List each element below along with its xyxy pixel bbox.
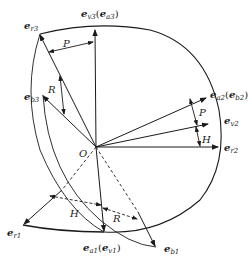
angle-label-R-bottom: R [112,213,121,224]
label-er1: er1 [7,227,21,240]
vector-ev3 [95,30,96,147]
angle-H-bottom-arrow [50,196,101,205]
arc-b3-b1 [43,95,156,247]
dashed-line-b1 [96,147,138,212]
label-ev2: ev2 [224,115,239,128]
angle-label-P-right: P [198,107,206,118]
angle-label-H-bottom: H [69,208,79,219]
angle-label-R-top: R [47,84,56,95]
label-ev3: ev3(ea3) [81,8,119,21]
vector-eb3 [43,96,96,147]
vector-ev2 [96,124,208,147]
outer-arc-top-right [40,26,221,232]
label-er3: er3 [24,20,39,33]
label-er2: er2 [224,142,239,155]
frame-rotation-diagram: O er3 ev3(ea3) eb3 ea2(eb2) ev2 er2 er1 … [0,0,248,263]
angle-P-top-arrow [49,42,93,52]
vector-ea2 [96,98,206,147]
origin-label: O [79,148,87,159]
angle-label-H-right: H [201,134,211,145]
angle-H-right-arrow [196,127,200,146]
vector-er1 [24,190,62,224]
vector-eb1 [138,212,155,246]
label-ea2: ea2(eb2) [210,89,248,102]
arc-r1-a1 [23,225,104,232]
vector-ea1 [96,147,104,231]
arc-left-r3-r1 [31,34,104,232]
label-eb3: eb3 [24,91,40,104]
label-ea1: ea1(ev1) [83,242,121,255]
angle-label-P-top: P [62,38,70,49]
label-eb1: eb1 [164,243,179,256]
